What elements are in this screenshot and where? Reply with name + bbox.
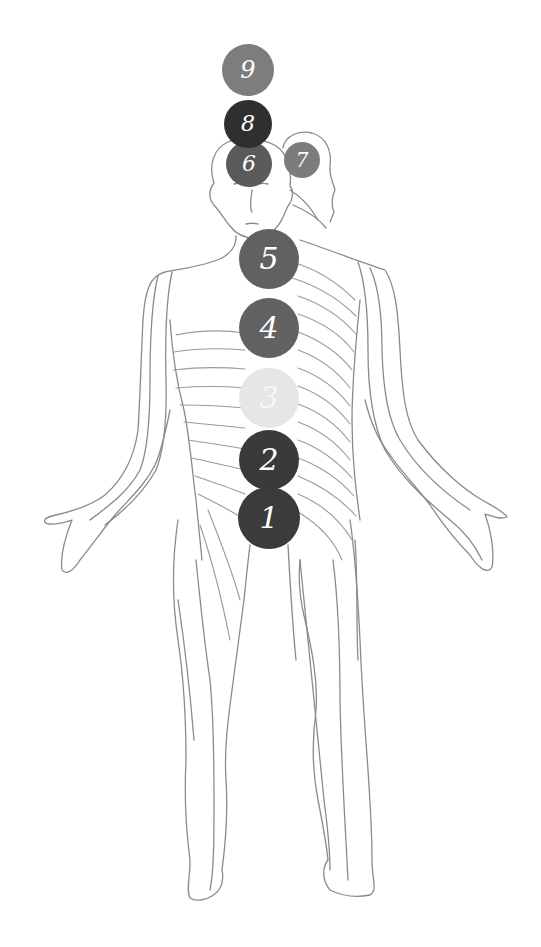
energy-point-3-label: 3 [259,383,278,413]
energy-point-7-label: 7 [296,150,309,170]
energy-point-1: 1 [238,487,300,549]
energy-point-6-label: 6 [242,153,256,175]
energy-point-8: 8 [224,100,272,148]
energy-point-5: 5 [239,229,299,289]
energy-point-5-label: 5 [259,244,278,274]
front-figure-outline [45,139,360,901]
energy-point-4: 4 [239,298,299,358]
energy-point-4-label: 4 [259,313,278,343]
energy-point-2-label: 2 [259,445,278,475]
energy-point-1-label: 1 [259,503,278,533]
energy-point-8-label: 8 [241,113,255,135]
back-figure-outline [283,132,507,896]
energy-point-7: 7 [284,142,320,178]
energy-point-9: 9 [222,44,274,96]
energy-point-9-label: 9 [240,58,255,82]
energy-point-3: 3 [239,368,299,428]
energy-point-2: 2 [239,430,299,490]
